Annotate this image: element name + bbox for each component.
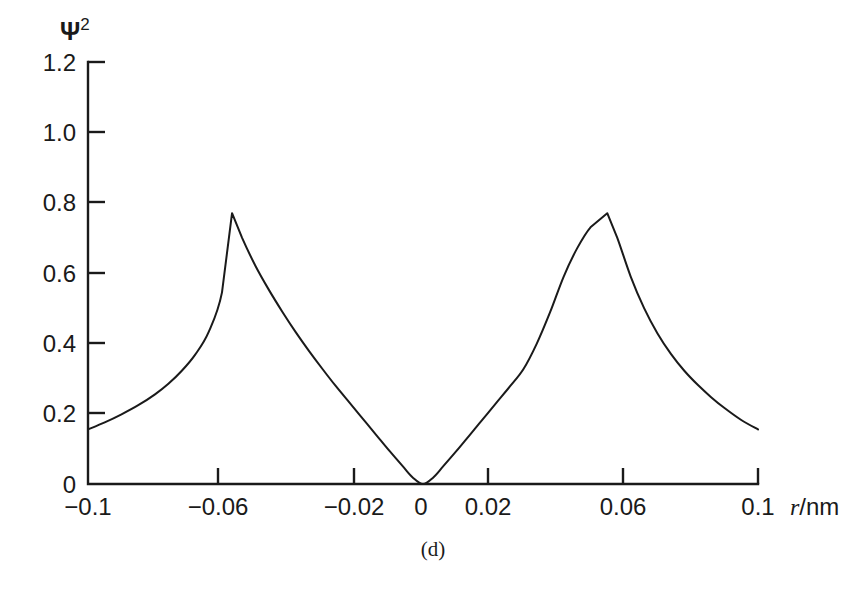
x-tick-label: 0 — [414, 493, 427, 520]
y-axis-ticks — [88, 62, 105, 413]
x-tick-label: 0.06 — [600, 493, 647, 520]
data-series-curve — [88, 213, 758, 484]
x-axis-label: r/nm — [790, 493, 839, 520]
y-tick-label: 0.2 — [43, 400, 76, 427]
figure-container: Ψ2 1.2 1.0 0.8 0.6 0.4 0.2 0 — [0, 0, 868, 602]
axis-frame — [88, 62, 758, 484]
y-tick-label: 0.8 — [43, 189, 76, 216]
y-tick-label: 0.4 — [43, 330, 76, 357]
x-axis-ticks — [218, 468, 758, 484]
y-axis-tick-labels: 1.2 1.0 0.8 0.6 0.4 0.2 0 — [43, 49, 76, 498]
psi-squared-plot: Ψ2 1.2 1.0 0.8 0.6 0.4 0.2 0 — [0, 0, 868, 602]
x-tick-label: 0.1 — [741, 493, 774, 520]
y-axis-label-exponent: 2 — [80, 15, 89, 34]
y-axis-label: Ψ2 — [60, 15, 90, 45]
y-axis-label-symbol: Ψ — [60, 17, 80, 45]
x-tick-label: −0.06 — [188, 493, 249, 520]
x-axis-tick-labels: −0.1 −0.06 −0.02 0 0.02 0.06 0.1 — [64, 493, 774, 520]
y-tick-label: 1.2 — [43, 49, 76, 76]
x-tick-label: −0.02 — [324, 493, 385, 520]
x-tick-label: 0.02 — [465, 493, 512, 520]
y-tick-label: 0.6 — [43, 260, 76, 287]
x-axis-label-unit: /nm — [799, 493, 839, 520]
y-tick-label: 1.0 — [43, 119, 76, 146]
x-tick-label: −0.1 — [64, 493, 111, 520]
figure-caption: (d) — [421, 537, 446, 561]
